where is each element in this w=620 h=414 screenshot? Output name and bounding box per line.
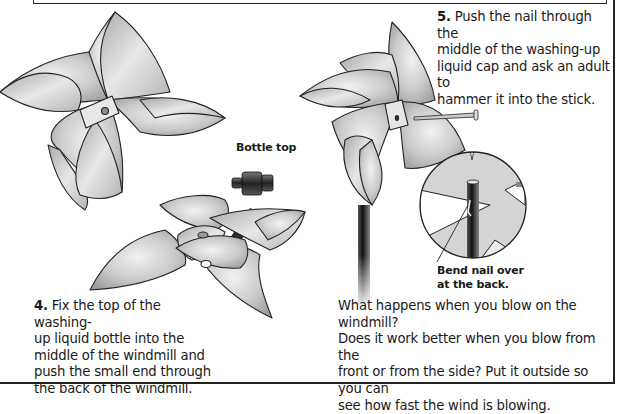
paper-windmill-front (0, 12, 225, 210)
bottle-top-label: Bottle top (236, 141, 296, 155)
step-4-number: 4. (34, 298, 48, 313)
step-5-text: 5. Push the nail through the middle of t… (437, 9, 613, 109)
step-4-text: 4. Fix the top of the washing- up liquid… (34, 298, 214, 398)
step-5-number: 5. (437, 9, 451, 24)
detail-circle (420, 150, 530, 262)
question-text: What happens when you blow on the windmi… (338, 298, 613, 414)
bend-nail-label: Bend nail over at the back. (437, 264, 537, 292)
bottle-top (232, 172, 273, 195)
